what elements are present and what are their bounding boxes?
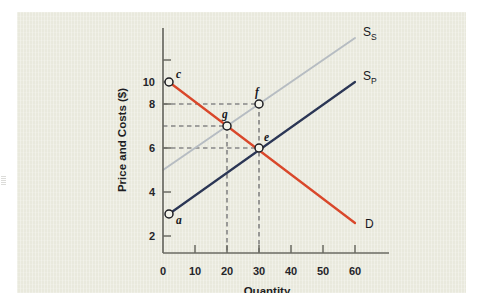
point-marker-g: [223, 122, 231, 130]
page-margin-artifact: [1, 176, 6, 185]
annotated-point-a: a: [165, 210, 182, 226]
x-tick-marks: [195, 245, 355, 253]
x-tick-labels: 0 10 20 30 40 50 60: [160, 265, 361, 277]
y-axis-title: Price and Costs ($): [116, 88, 128, 192]
point-label-g: g: [221, 108, 228, 121]
x-tick-label-10: 10: [189, 265, 201, 277]
curve-label-demand: D: [365, 217, 374, 231]
annotated-point-f: f: [255, 86, 263, 108]
x-tick-label-60: 60: [349, 265, 361, 277]
x-axis-title: Quantity: [244, 285, 291, 293]
curve-label-ss-main: S: [363, 25, 371, 39]
y-tick-label-6: 6: [149, 142, 155, 154]
curve-label-sp-subscript: P: [371, 76, 377, 86]
annotated-point-c: c: [165, 68, 181, 86]
point-label-c: c: [176, 68, 181, 80]
x-tick-label-0: 0: [160, 265, 166, 277]
point-label-f: f: [255, 86, 260, 99]
curve-label-d-main: D: [365, 217, 374, 231]
y-tick-label-2: 2: [149, 230, 155, 242]
y-tick-label-8: 8: [149, 98, 155, 110]
annotated-point-e: e: [255, 131, 269, 152]
curve-label-private-supply: S P: [363, 69, 377, 86]
axes: [163, 28, 389, 253]
point-marker-e: [255, 144, 263, 152]
economics-supply-demand-chart: 10 8 6 4 2 0 10 20 30 40 50 60 Price and…: [17, 12, 466, 293]
x-tick-label-40: 40: [285, 265, 297, 277]
point-label-e: e: [264, 131, 269, 143]
curve-label-sp-main: S: [363, 69, 371, 83]
x-tick-label-30: 30: [253, 265, 265, 277]
y-tick-label-10: 10: [143, 76, 155, 88]
y-tick-labels: 10 8 6 4 2: [143, 76, 156, 242]
curve-label-ss-subscript: S: [371, 32, 377, 42]
annotated-point-g: g: [221, 108, 231, 130]
curve-label-social-supply: S S: [363, 25, 377, 42]
point-label-a: a: [176, 214, 182, 226]
point-marker-f: [255, 100, 263, 108]
chart-panel: 10 8 6 4 2 0 10 20 30 40 50 60 Price and…: [17, 12, 466, 293]
y-tick-label-4: 4: [149, 186, 156, 198]
point-marker-c: [165, 78, 173, 86]
x-tick-label-20: 20: [221, 265, 233, 277]
guide-lines: [163, 104, 259, 253]
figure-root: 10 8 6 4 2 0 10 20 30 40 50 60 Price and…: [0, 0, 483, 306]
point-marker-a: [165, 210, 173, 218]
x-tick-label-50: 50: [317, 265, 329, 277]
